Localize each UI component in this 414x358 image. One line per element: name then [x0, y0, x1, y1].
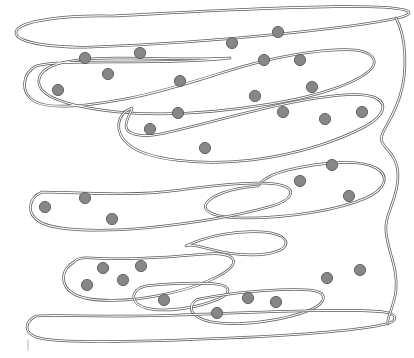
granule — [306, 81, 317, 92]
granule — [79, 192, 90, 203]
granule — [354, 264, 365, 275]
granule — [321, 272, 332, 283]
granule — [134, 47, 145, 58]
diagram-figure — [0, 0, 414, 358]
granule — [294, 54, 305, 65]
granule — [356, 106, 367, 117]
granule — [106, 213, 117, 224]
granule — [319, 113, 330, 124]
granule — [249, 90, 260, 101]
granule — [81, 279, 92, 290]
granule — [270, 296, 281, 307]
granule — [277, 106, 288, 117]
granule — [174, 75, 185, 86]
granule — [135, 260, 146, 271]
granule — [272, 26, 283, 37]
granule — [102, 68, 113, 79]
granule — [226, 37, 237, 48]
granule — [52, 84, 63, 95]
granule — [39, 201, 50, 212]
granule — [172, 107, 183, 118]
granule — [158, 294, 169, 305]
granule — [326, 159, 337, 170]
granule — [294, 175, 305, 186]
granule — [97, 262, 108, 273]
granule — [242, 292, 253, 303]
granule — [144, 123, 155, 134]
granule — [117, 274, 128, 285]
granule — [79, 52, 90, 63]
membrane-diagram-canvas — [0, 0, 414, 358]
granule — [199, 142, 210, 153]
granule — [258, 54, 269, 65]
granule — [343, 190, 354, 201]
granule — [211, 307, 222, 318]
